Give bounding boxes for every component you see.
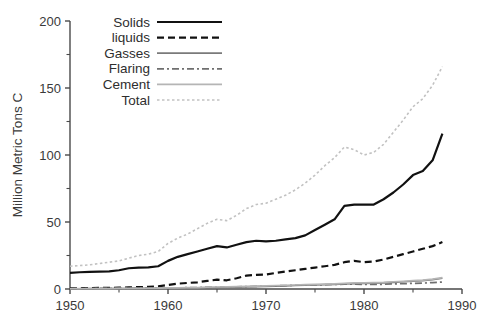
x-tick-label: 1960 [154,298,183,313]
x-tick-label: 1980 [350,298,379,313]
legend-label-flaring: Flaring [109,61,150,76]
legend-label-cement: Cement [103,77,151,92]
y-tick-label: 200 [39,14,61,29]
y-tick-label: 100 [39,148,61,163]
y-tick-label: 50 [47,215,61,230]
y-axis-label: Million Metric Tons C [10,93,25,218]
legend-label-total: Total [121,93,150,108]
line-chart: 05010015020019501960197019801990Million … [0,0,479,322]
legend-label-liquids: liquids [112,30,151,45]
legend-label-gasses: Gasses [104,46,150,61]
x-tick-label: 1990 [448,298,477,313]
x-tick-label: 1970 [252,298,281,313]
series-line-solids [70,134,442,273]
x-tick-label: 1950 [56,298,85,313]
y-tick-label: 150 [39,81,61,96]
legend-label-solids: Solids [113,15,150,30]
chart-container: 05010015020019501960197019801990Million … [0,0,479,322]
legend: SolidsliquidsGassesFlaringCementTotal [103,15,222,108]
y-tick-label: 0 [54,282,61,297]
